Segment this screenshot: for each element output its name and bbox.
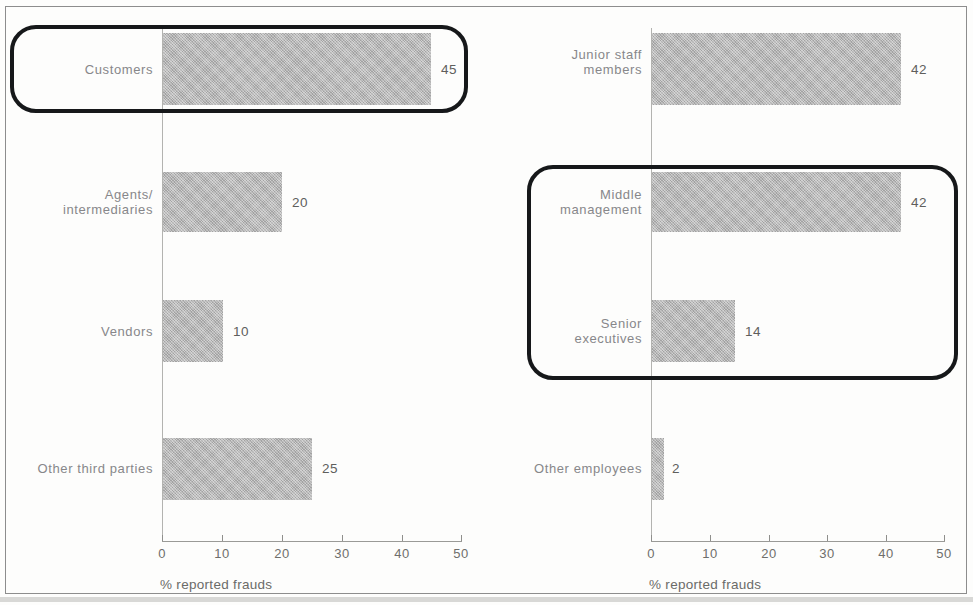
- chart-internal-perpetrators: 0 10 20 30 40 50 % reported frauds 42 Ju…: [490, 0, 973, 605]
- right-tick-50: [944, 535, 945, 541]
- left-category-axis: [162, 541, 462, 542]
- left-category-label-other-third-parties: Other third parties: [14, 461, 153, 476]
- left-tick-20: [282, 535, 283, 541]
- left-bar-vendors: [163, 300, 223, 362]
- right-category-label-middle-management: Middle management: [516, 187, 642, 217]
- left-tick-label-0: 0: [145, 546, 179, 561]
- left-tick-50: [461, 535, 462, 541]
- right-bar-value-senior-executives: 14: [745, 324, 761, 339]
- right-bar-other-employees: [652, 438, 664, 500]
- left-tick-label-10: 10: [205, 546, 239, 561]
- left-tick-30: [342, 535, 343, 541]
- left-bar-value-other-third-parties: 25: [322, 461, 338, 476]
- left-bar-customers: [163, 33, 431, 105]
- left-bar-agents: [163, 172, 282, 232]
- plot-area-left: 0 10 20 30 40 50 % reported frauds 45 Cu…: [0, 0, 490, 605]
- right-bar-value-junior-staff: 42: [911, 62, 927, 77]
- left-bar-value-vendors: 10: [233, 324, 249, 339]
- left-tick-10: [222, 535, 223, 541]
- left-bar-value-customers: 45: [441, 62, 457, 77]
- right-bar-senior-executives: [652, 300, 735, 362]
- right-tick-30: [827, 535, 828, 541]
- right-category-label-senior-executives: Senior executives: [516, 316, 642, 346]
- plot-area-right: 0 10 20 30 40 50 % reported frauds 42 Ju…: [490, 0, 973, 605]
- left-tick-label-40: 40: [385, 546, 419, 561]
- left-tick-label-50: 50: [444, 546, 478, 561]
- left-tick-40: [402, 535, 403, 541]
- left-tick-label-20: 20: [265, 546, 299, 561]
- right-bar-value-middle-management: 42: [911, 195, 927, 210]
- figure-page: 0 10 20 30 40 50 % reported frauds 45 Cu…: [0, 0, 973, 605]
- left-axis-title: % reported frauds: [160, 577, 272, 592]
- right-bar-value-other-employees: 2: [672, 461, 680, 476]
- right-bar-middle-management: [652, 172, 901, 232]
- right-tick-0: [651, 535, 652, 541]
- right-axis-title: % reported frauds: [649, 577, 761, 592]
- right-tick-label-10: 10: [693, 546, 727, 561]
- right-tick-label-0: 0: [634, 546, 668, 561]
- right-tick-10: [710, 535, 711, 541]
- right-category-label-other-employees: Other employees: [500, 461, 642, 476]
- right-category-label-junior-staff: Junior staff members: [516, 47, 642, 77]
- right-tick-label-50: 50: [927, 546, 961, 561]
- right-tick-20: [769, 535, 770, 541]
- right-tick-40: [886, 535, 887, 541]
- right-category-axis: [651, 541, 945, 542]
- chart-external-perpetrators: 0 10 20 30 40 50 % reported frauds 45 Cu…: [0, 0, 490, 605]
- left-bar-other-third-parties: [163, 438, 312, 500]
- right-tick-label-40: 40: [869, 546, 903, 561]
- left-tick-0: [162, 535, 163, 541]
- right-bar-junior-staff: [652, 33, 901, 105]
- left-tick-label-30: 30: [325, 546, 359, 561]
- right-tick-label-20: 20: [752, 546, 786, 561]
- right-tick-label-30: 30: [810, 546, 844, 561]
- left-category-label-customers: Customers: [20, 62, 153, 77]
- left-bar-value-agents: 20: [292, 195, 308, 210]
- left-category-label-vendors: Vendors: [20, 324, 153, 339]
- left-category-label-agents: Agents/ intermediaries: [20, 187, 153, 217]
